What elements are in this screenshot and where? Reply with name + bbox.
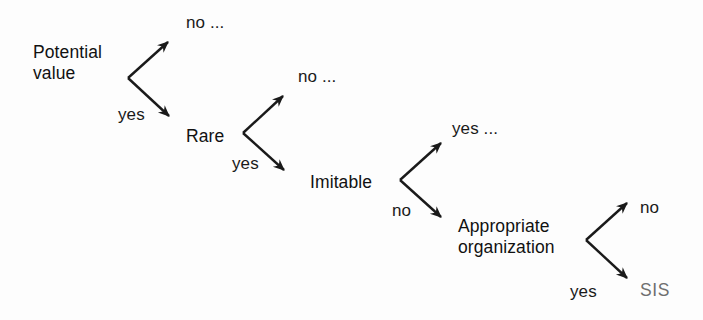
branch-label-potential-value-no: no ... [186,12,224,33]
branch-label-imitable-yes: yes ... [452,118,498,139]
vrio-decision-tree-diagram: Potential value no ... yes Rare no ... y… [0,0,703,320]
node-organization-line1: Appropriate [458,216,555,237]
branch-label-organization-no: no [640,197,659,218]
node-rare: Rare [186,126,224,147]
branch-label-imitable-no: no [392,200,411,221]
branch-label-organization-yes: yes [570,281,597,302]
terminal-node-sis: SIS [640,280,670,301]
branch-label-rare-no: no ... [298,66,336,87]
arrow-imitable-yes [400,143,441,180]
diagram-arrows-layer [0,0,703,320]
branch-label-potential-value-yes: yes [118,104,145,125]
node-organization-line2: organization [458,237,555,258]
branch-label-rare-yes: yes [232,153,259,174]
node-potential-value-line2: value [33,63,102,84]
arrow-organization-no [586,203,627,240]
node-imitable: Imitable [310,172,372,193]
node-appropriate-organization: Appropriate organization [458,216,555,258]
arrow-rare-no [243,96,283,133]
arrow-organization-yes [586,240,627,278]
node-potential-value-line1: Potential [33,42,102,63]
arrow-potential-value-no [128,42,168,78]
node-potential-value: Potential value [33,42,102,84]
branch-group-organization [586,203,627,278]
